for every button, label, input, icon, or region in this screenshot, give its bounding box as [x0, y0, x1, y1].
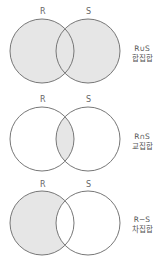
operator-label: R−S	[125, 215, 159, 225]
set-s-label: S	[86, 8, 91, 16]
difference-diagram	[10, 191, 120, 255]
set-r-label: R	[40, 181, 46, 189]
intersection-caption: R∩S 교집합	[125, 132, 159, 152]
operation-name: 차집합	[125, 225, 159, 235]
operation-name: 교집합	[125, 142, 159, 152]
difference-caption: R−S 차집합	[125, 215, 159, 235]
union-diagram	[10, 19, 120, 83]
operation-name: 합집합	[125, 54, 159, 64]
intersection-diagram	[10, 107, 120, 171]
set-s-label: S	[86, 96, 91, 104]
set-r-label: R	[40, 8, 46, 16]
set-r-label: R	[40, 96, 46, 104]
set-s-label: S	[86, 181, 91, 189]
operator-label: R∩S	[125, 132, 159, 142]
operator-label: R∪S	[125, 44, 159, 54]
union-caption: R∪S 합집합	[125, 44, 159, 64]
